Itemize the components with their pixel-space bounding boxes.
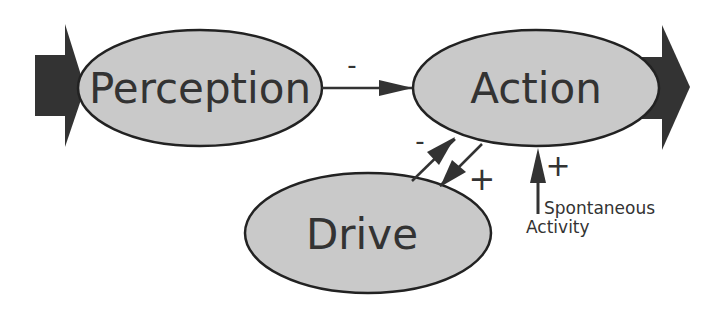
spontaneous-label-line2: Activity	[526, 217, 590, 237]
edge-sign-minus: -	[415, 126, 424, 156]
edge-perception-to-action: -	[322, 50, 413, 96]
arrowhead-icon	[530, 148, 546, 183]
perception-label: Perception	[89, 64, 311, 113]
drive-label: Drive	[306, 210, 418, 259]
action-label: Action	[470, 64, 602, 113]
perception-action-drive-diagram: Perception Action Drive - - + + Spontane…	[0, 0, 725, 316]
drive-node: Drive	[245, 173, 491, 293]
spontaneous-activity-annotation: Spontaneous Activity	[526, 198, 655, 237]
arrowhead-icon	[379, 80, 413, 96]
edge-sign-plus: +	[469, 160, 496, 198]
action-node: Action	[413, 30, 659, 146]
edge-sign-plus: +	[545, 148, 570, 183]
spontaneous-label-line1: Spontaneous	[544, 198, 655, 218]
edge-sign-minus: -	[347, 50, 356, 80]
perception-node: Perception	[78, 30, 322, 146]
